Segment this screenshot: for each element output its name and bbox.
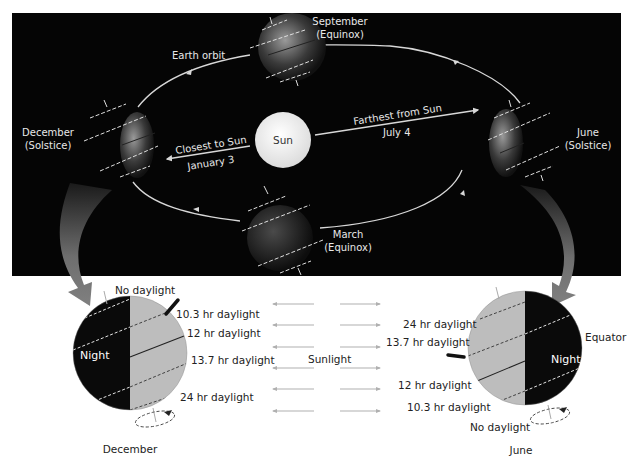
december-top-label: No daylight — [115, 284, 175, 296]
seasons-diagram: Sun Closest to Sun January 3 Farthest fr… — [0, 0, 632, 463]
june-event: (Solstice) — [565, 140, 612, 151]
june-month: June — [576, 127, 599, 138]
june-caption: June — [509, 444, 533, 456]
december-night-label: Night — [80, 349, 110, 362]
sun-label: Sun — [273, 134, 293, 146]
december-event: (Solstice) — [25, 140, 72, 151]
december-lat-2: 12 hr daylight — [187, 327, 261, 339]
june-bottom-label: No daylight — [470, 421, 530, 433]
june-lat-4: 10.3 hr daylight — [407, 401, 491, 413]
december-axis-bottom — [153, 408, 156, 422]
june-axis-top — [496, 287, 499, 299]
june-lat-3: 12 hr daylight — [398, 379, 472, 391]
pointer-june — [448, 355, 464, 357]
december-caption: December — [103, 443, 158, 455]
june-axis-bottom — [548, 405, 551, 419]
december-lat-4: 24 hr daylight — [180, 391, 254, 403]
december-lat-3: 13.7 hr daylight — [191, 354, 275, 366]
september-event: (Equinox) — [316, 29, 364, 40]
march-month: March — [333, 229, 363, 240]
farthest-date: July 4 — [382, 127, 411, 138]
sunlight-label: Sunlight — [308, 353, 351, 365]
june-equator-label: Equator — [585, 331, 627, 343]
september-month: September — [312, 16, 368, 27]
december-month: December — [22, 127, 75, 138]
march-event: (Equinox) — [324, 242, 372, 253]
june-night-label: Night — [551, 353, 581, 366]
june-lat-1: 24 hr daylight — [403, 318, 477, 330]
june-lat-2: 13.7 hr daylight — [386, 336, 470, 348]
december-lat-1: 10.3 hr daylight — [176, 308, 260, 320]
earth-orbit-label: Earth orbit — [172, 50, 225, 61]
